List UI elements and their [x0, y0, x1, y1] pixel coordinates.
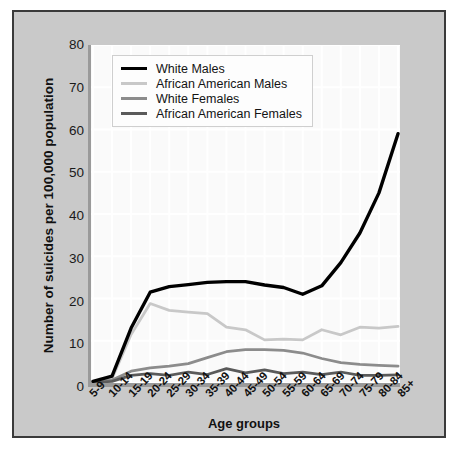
legend-item: White Females [121, 91, 302, 106]
legend-color-swatch [121, 67, 147, 70]
legend-color-swatch [121, 82, 147, 85]
y-axis-tick: 80 [40, 38, 84, 52]
legend-color-swatch [121, 112, 147, 115]
figure-panel: 01020304050607080 Number of suicides per… [12, 10, 446, 438]
legend-label: African American Females [156, 107, 302, 121]
legend-label: African American Males [156, 77, 287, 91]
legend-label: White Females [156, 92, 239, 106]
chart-legend: White MalesAfrican American MalesWhite F… [112, 55, 313, 127]
legend-item: White Males [121, 61, 302, 76]
x-axis-title: Age groups [88, 416, 400, 431]
legend-color-swatch [121, 97, 147, 100]
y-axis-tick: 0 [40, 380, 84, 394]
legend-item: African American Females [121, 106, 302, 121]
y-axis-title: Number of suicides per 100,000 populatio… [41, 56, 56, 376]
legend-label: White Males [156, 62, 225, 76]
series-line [93, 134, 398, 382]
legend-item: African American Males [121, 76, 302, 91]
